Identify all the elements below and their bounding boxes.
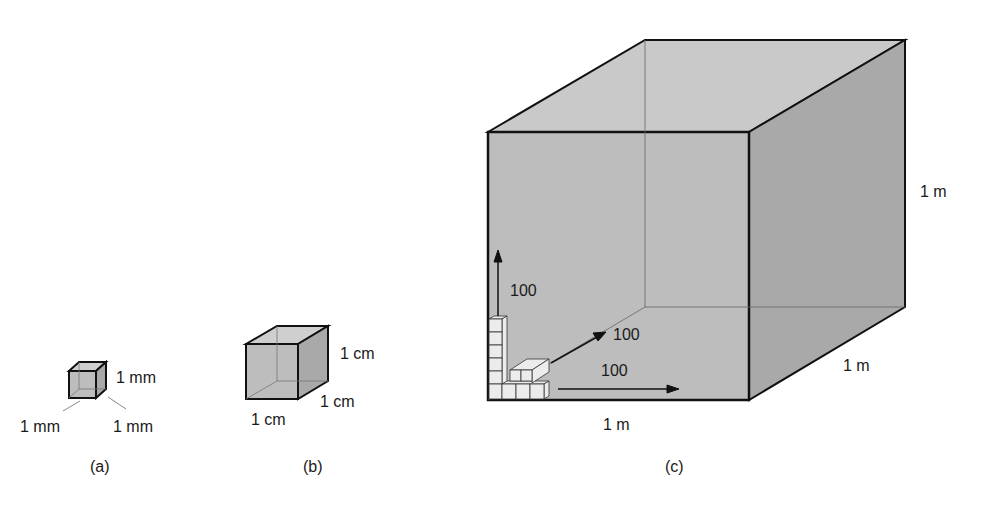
cube-c-height-label: 1 m xyxy=(920,184,947,200)
arrow-right-label: 100 xyxy=(601,363,628,379)
cube-1cm xyxy=(246,326,328,399)
cube-a-height-label: 1 mm xyxy=(116,370,156,386)
arrow-diagonal-label: 100 xyxy=(613,327,640,343)
caption-b: (b) xyxy=(303,459,323,475)
cube-b-height-label: 1 cm xyxy=(340,346,375,362)
cube-c-width-label: 1 m xyxy=(603,417,630,433)
cube-1m xyxy=(488,40,905,400)
cube-b-depth-label: 1 cm xyxy=(320,394,355,410)
caption-c: (c) xyxy=(665,459,684,475)
cube-a-depth-label: 1 mm xyxy=(113,419,153,435)
arrow-up-label: 100 xyxy=(510,283,537,299)
cube-b-width-label: 1 cm xyxy=(251,412,286,428)
cube-c-depth-label: 1 m xyxy=(843,358,870,374)
caption-a: (a) xyxy=(90,459,110,475)
cube-a-width-label: 1 mm xyxy=(20,419,60,435)
